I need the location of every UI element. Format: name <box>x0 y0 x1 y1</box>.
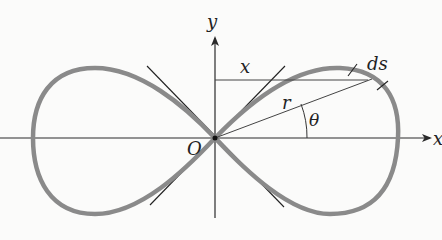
y-axis-label: y <box>206 11 218 32</box>
x-axis-label: x <box>433 128 442 149</box>
radius-line <box>215 79 372 138</box>
origin-point <box>213 136 218 141</box>
origin-label: O <box>187 138 202 159</box>
angle-arc <box>301 104 307 138</box>
radius-label: r <box>282 92 292 113</box>
segment-x-label: x <box>240 56 250 77</box>
lemniscate-diagram: y x O x r θ ds <box>0 0 442 240</box>
angle-label: θ <box>309 110 319 130</box>
ds-label: ds <box>367 53 388 74</box>
